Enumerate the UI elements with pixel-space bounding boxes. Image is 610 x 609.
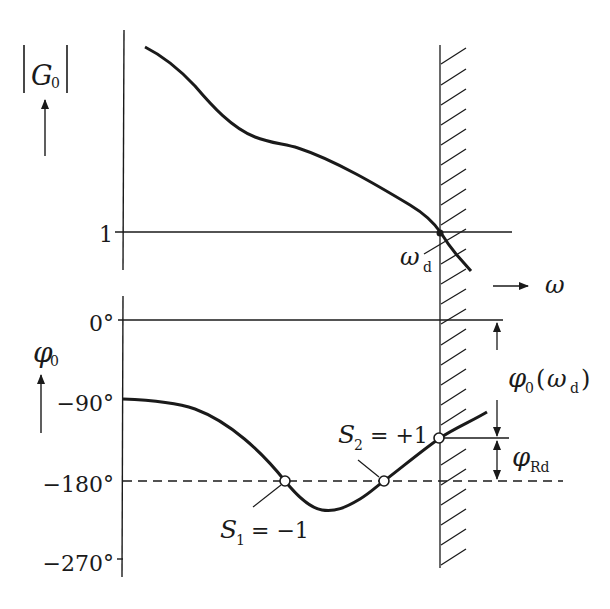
magnitude-y-axis xyxy=(123,30,124,270)
tick-label-minus270deg: −270° xyxy=(43,551,114,576)
phase-margin-dimension: φ Rd xyxy=(497,441,550,479)
svg-text:ω: ω xyxy=(547,365,567,393)
phase-at-crossover-dimension: φ 0 ( ω d ) xyxy=(497,323,590,436)
svg-text:Rd: Rd xyxy=(530,459,550,475)
svg-text:d: d xyxy=(423,259,432,275)
svg-text:S: S xyxy=(220,515,237,544)
tick-label-0deg: 0° xyxy=(89,311,114,336)
svg-text:= +1: = +1 xyxy=(363,423,428,448)
magnitude-plot: G 0 1 ω d ω xyxy=(24,30,565,299)
svg-text:S: S xyxy=(338,420,355,449)
phase-ylabel: φ 0 xyxy=(33,336,59,369)
bode-diagram-svg: G 0 1 ω d ω xyxy=(0,0,610,609)
svg-text:G: G xyxy=(31,60,53,91)
svg-text:d: d xyxy=(570,380,579,396)
tick-label-minus90deg: −90° xyxy=(57,391,114,416)
magnitude-curve xyxy=(145,47,471,271)
paren-close: ) xyxy=(581,365,590,393)
svg-text:0: 0 xyxy=(50,353,59,369)
phase-curve xyxy=(123,399,487,511)
bode-diagram: G 0 1 ω d ω xyxy=(0,0,610,609)
phase-plot: φ 0 0° −90° −180° −270° S 1 = −1 xyxy=(33,296,590,577)
crossover-boundary-hatched xyxy=(424,45,466,568)
svg-text:0: 0 xyxy=(51,75,60,91)
tick-label-one: 1 xyxy=(99,222,113,247)
svg-text:ω: ω xyxy=(400,243,420,271)
crossover-frequency-label: ω d xyxy=(400,243,432,275)
svg-text:2: 2 xyxy=(354,437,363,453)
phase-crossover-point xyxy=(434,433,444,443)
frequency-axis-label: ω xyxy=(545,271,565,299)
paren-open: ( xyxy=(536,365,545,393)
phase-y-axis xyxy=(122,296,123,577)
svg-text:= −1: = −1 xyxy=(244,518,309,543)
crossing-point-s2: S 2 = +1 xyxy=(338,420,428,486)
crossing-point-s1: S 1 = −1 xyxy=(220,476,309,548)
svg-text:φ: φ xyxy=(512,442,531,472)
magnitude-ylabel: G 0 xyxy=(24,45,67,93)
tick-label-minus180deg: −180° xyxy=(43,472,114,497)
svg-text:0: 0 xyxy=(525,380,534,396)
